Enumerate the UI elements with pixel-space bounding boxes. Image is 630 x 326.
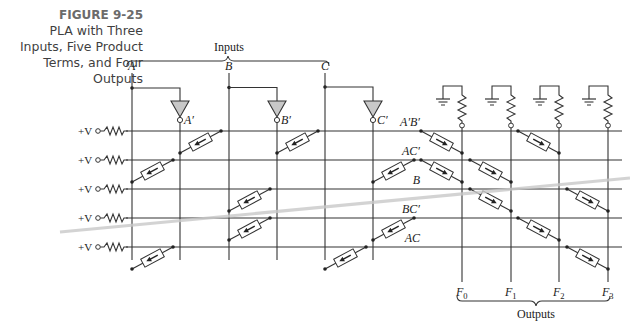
resistor-icon xyxy=(458,91,466,123)
resistor-icon xyxy=(101,156,129,164)
and-diode xyxy=(227,187,272,213)
resistor-icon xyxy=(101,127,129,135)
or-diode xyxy=(419,158,464,184)
inverted-input-label: C′ xyxy=(377,113,388,127)
and-diode xyxy=(323,245,368,271)
diode-icon xyxy=(141,162,165,180)
product-term-row: +VA′B′ xyxy=(78,115,622,137)
or-diode xyxy=(565,245,610,271)
output-label: F3 xyxy=(601,285,614,301)
supply-terminal xyxy=(96,187,101,192)
output-label: F1 xyxy=(504,285,517,301)
and-diode xyxy=(275,129,320,155)
diode-icon xyxy=(238,191,262,209)
diode-icon xyxy=(238,220,262,238)
diode-icon xyxy=(382,162,406,180)
input-label: A xyxy=(127,59,136,73)
pla-circuit-diagram: Inputs Outputs AA′BB′CC′ +VA′B′+VAC′+VB+… xyxy=(0,0,630,326)
output-terminal xyxy=(460,123,465,128)
resistor-icon xyxy=(101,185,129,193)
diode-icon xyxy=(430,162,454,180)
resistor-icon xyxy=(555,91,563,123)
resistor-icon xyxy=(604,91,612,123)
diode-icon xyxy=(382,220,406,238)
and-diode xyxy=(371,158,416,184)
supply-label: +V xyxy=(78,183,92,195)
resistor-icon xyxy=(101,214,129,222)
diode-icon xyxy=(286,133,310,151)
diode-icon xyxy=(479,162,503,180)
output-label: F2 xyxy=(552,285,565,301)
diode-icon xyxy=(430,133,454,151)
and-diode xyxy=(130,158,175,184)
outputs-brace: Outputs xyxy=(457,296,610,321)
supply-label: +V xyxy=(78,154,92,166)
diode-icon xyxy=(189,133,213,151)
diode-icon xyxy=(334,249,358,267)
supply-label: +V xyxy=(78,125,92,137)
supply-label: +V xyxy=(78,241,92,253)
inputs-label: Inputs xyxy=(214,40,244,54)
and-diode xyxy=(130,245,175,271)
inversion-bubble xyxy=(370,117,375,122)
product-term-label: AC′ xyxy=(401,144,420,158)
supply-terminal xyxy=(96,129,101,134)
diode-icon xyxy=(527,220,551,238)
or-diode xyxy=(516,129,561,155)
supply-label: +V xyxy=(78,212,92,224)
product-term-row: +VB xyxy=(78,173,622,195)
product-term-label: A′B′ xyxy=(399,115,420,129)
diodes xyxy=(60,129,630,271)
scan-artifact xyxy=(60,178,630,232)
product-term-label: AC xyxy=(404,231,421,245)
diode-icon xyxy=(141,249,165,267)
diode-icon xyxy=(576,191,600,209)
output-terminal xyxy=(557,123,562,128)
output-label: F0 xyxy=(455,285,468,301)
output-F2: F2 xyxy=(533,86,565,301)
supply-terminal xyxy=(96,158,101,163)
input-label: C xyxy=(321,59,330,73)
inversion-bubble xyxy=(274,117,279,122)
and-diode xyxy=(227,216,272,242)
output-F1: F1 xyxy=(485,86,517,301)
and-diode xyxy=(178,129,223,155)
output-terminal xyxy=(606,123,611,128)
outputs-label: Outputs xyxy=(517,307,555,321)
resistor-icon xyxy=(101,243,129,251)
or-diode xyxy=(516,216,561,242)
output-terminal xyxy=(509,123,514,128)
inversion-bubble xyxy=(177,117,182,122)
or-diode xyxy=(419,129,464,155)
diode-icon xyxy=(527,133,551,151)
product-term-label: B xyxy=(413,173,421,187)
diode-icon xyxy=(479,191,503,209)
input-label: B xyxy=(225,59,233,73)
diode-icon xyxy=(576,249,600,267)
or-diode xyxy=(565,187,610,213)
inverted-input-label: B′ xyxy=(281,113,291,127)
product-term-label: BC′ xyxy=(402,202,420,216)
inverted-input-label: A′ xyxy=(183,113,194,127)
supply-terminal xyxy=(96,245,101,250)
supply-terminal xyxy=(96,216,101,221)
or-diode xyxy=(468,158,513,184)
resistor-icon xyxy=(507,91,515,123)
